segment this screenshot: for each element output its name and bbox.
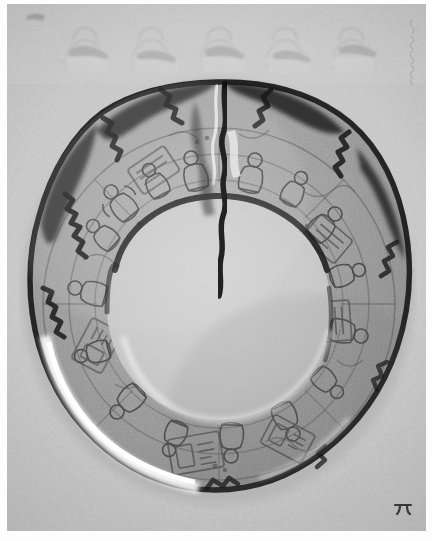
carved-disc-object <box>19 74 417 514</box>
top-relief-motif-band <box>7 4 426 84</box>
lower-right-ink-mark <box>392 499 414 517</box>
photograph-image <box>7 4 426 531</box>
handwritten-margin-note <box>404 16 420 88</box>
photographic-plate: annular carved disc <box>0 0 432 541</box>
